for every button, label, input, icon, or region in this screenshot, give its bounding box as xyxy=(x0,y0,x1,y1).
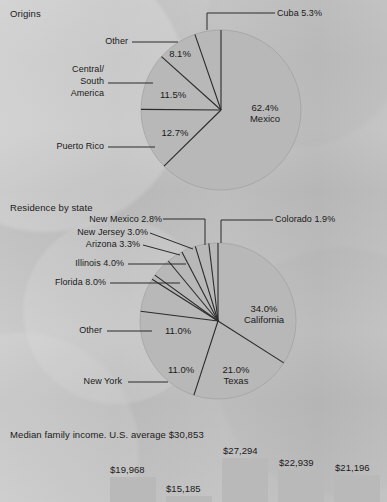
leader-new-jersey xyxy=(150,233,193,249)
leader-colorado xyxy=(221,220,273,243)
residence-pct-texas: 21.0% xyxy=(210,364,262,375)
residence-label-new-york: New York xyxy=(56,376,122,387)
origins-divider-puertorico xyxy=(141,109,221,110)
origins-label-central-south-2: South xyxy=(40,76,104,87)
infographic-stage: Origins Residence by state Median family… xyxy=(0,0,387,502)
origins-label-mexico: Mexico xyxy=(237,113,293,124)
income-bar-1 xyxy=(110,477,156,502)
income-bar-5 xyxy=(334,475,380,502)
residence-label-florida: Florida 8.0% xyxy=(22,277,106,288)
residence-label-texas: Texas xyxy=(210,375,262,386)
income-bar-3 xyxy=(222,458,268,502)
origins-label-cuba: Cuba 5.3% xyxy=(277,8,322,19)
income-bar-value-5: $21,196 xyxy=(335,462,370,473)
residence-label-new-mexico: New Mexico 2.8% xyxy=(54,214,162,225)
income-bar-value-1: $19,968 xyxy=(110,464,145,475)
residence-label-california: California xyxy=(232,314,296,325)
origins-label-central-south-3: America xyxy=(40,88,104,99)
residence-label-other: Other xyxy=(56,325,102,336)
income-bar-4 xyxy=(278,470,324,502)
residence-label-new-jersey: New Jersey 3.0% xyxy=(44,227,148,238)
residence-label-colorado: Colorado 1.9% xyxy=(275,214,335,225)
leader-cuba xyxy=(207,13,275,30)
leader-new-mexico xyxy=(163,219,205,245)
origins-label-puerto-rico: Puerto Rico xyxy=(40,141,104,152)
residence-pct-california: 34.0% xyxy=(232,303,296,314)
residence-label-arizona: Arizona 3.3% xyxy=(54,239,140,250)
income-bar-value-2: $15,185 xyxy=(166,483,201,494)
origins-pct-central-south: 11.5% xyxy=(150,89,196,100)
income-bar-value-4: $22,939 xyxy=(279,457,314,468)
origins-pct-mexico: 62.4% xyxy=(237,102,293,113)
residence-pct-new-york: 11.0% xyxy=(158,364,204,375)
origins-label-other: Other xyxy=(84,36,128,47)
origins-pct-puerto-rico: 12.7% xyxy=(152,127,198,138)
leader-arizona xyxy=(143,245,180,255)
residence-pct-other: 11.0% xyxy=(155,325,201,336)
income-bar-value-3: $27,294 xyxy=(223,445,258,456)
residence-label-illinois: Illinois 4.0% xyxy=(44,258,124,269)
origins-label-central-south-1: Central/ xyxy=(40,64,104,75)
origins-pct-other: 8.1% xyxy=(160,48,200,59)
income-bar-2 xyxy=(166,496,212,502)
